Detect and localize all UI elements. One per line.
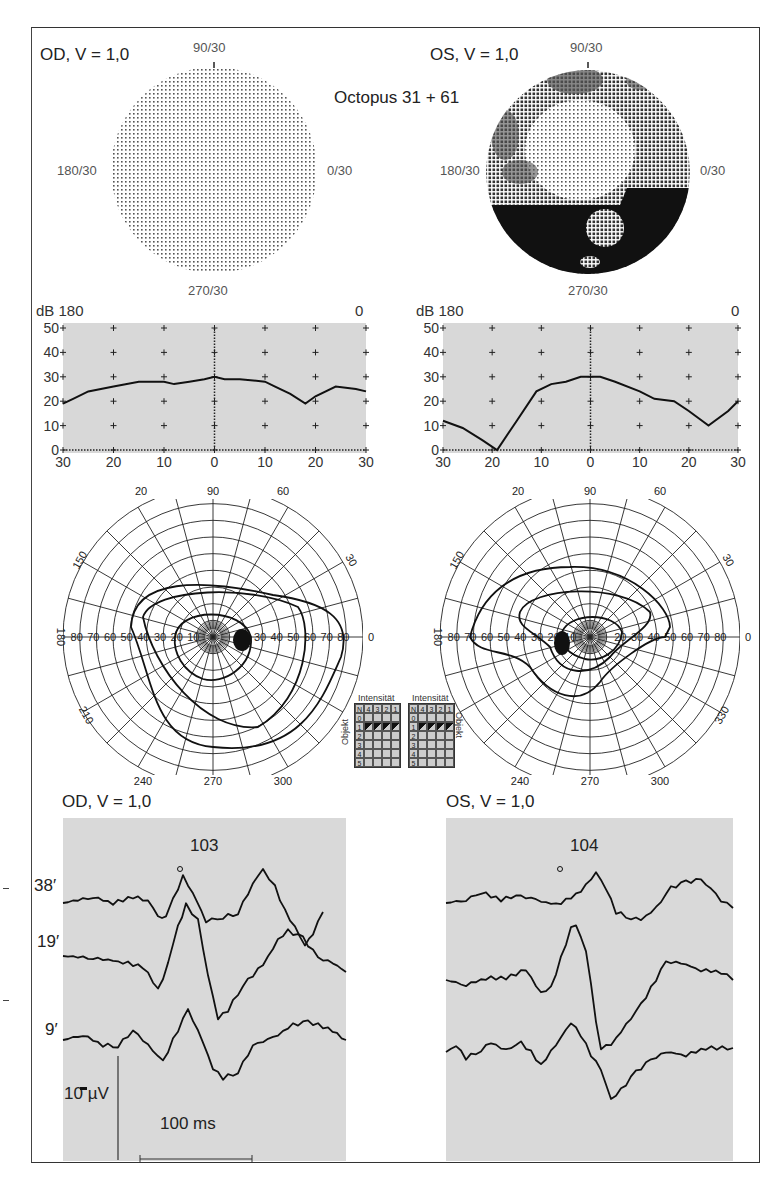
svg-text:30: 30 (423, 369, 439, 385)
grid-cell (427, 713, 436, 722)
grid-cell: 2 (355, 731, 364, 740)
svg-text:0: 0 (211, 454, 219, 470)
svg-text:90: 90 (584, 485, 596, 497)
grid-cell (373, 722, 382, 731)
svg-text:210: 210 (77, 704, 97, 726)
grid-cell: 2 (436, 704, 445, 713)
svg-text:20: 20 (484, 454, 500, 470)
object-label-od: Objekt (340, 719, 350, 745)
grid-cell (418, 758, 427, 767)
grid-cell (391, 740, 400, 749)
grid-cell: N (409, 704, 418, 713)
grid-cell (436, 758, 445, 767)
svg-text:10: 10 (534, 454, 550, 470)
grid-cell (436, 740, 445, 749)
svg-text:50: 50 (287, 631, 299, 643)
grid-cell (382, 740, 391, 749)
grid-cell (391, 722, 400, 731)
svg-text:300: 300 (651, 775, 669, 787)
grid-cell: 1 (445, 704, 454, 713)
svg-text:40: 40 (43, 344, 59, 360)
grid-cell (445, 713, 454, 722)
svg-text:0: 0 (368, 631, 374, 643)
svg-text:20: 20 (43, 393, 59, 409)
grid-cell (445, 731, 454, 740)
svg-text:50: 50 (121, 631, 133, 643)
grid-cell: 4 (409, 749, 418, 758)
od-profile-chart: 010203040503020100102030 (43, 320, 374, 470)
legend-box-od: Intensität N4321012345 (354, 693, 401, 768)
grid-cell: 0 (355, 713, 364, 722)
svg-text:10: 10 (632, 454, 648, 470)
grayscale-maps (0, 0, 769, 300)
grid-cell (418, 713, 427, 722)
svg-text:90: 90 (207, 485, 219, 497)
grid-cell (445, 758, 454, 767)
grid-cell: 4 (355, 749, 364, 758)
svg-text:60: 60 (277, 485, 289, 497)
grid-cell (427, 722, 436, 731)
grid-cell: 1 (355, 722, 364, 731)
svg-text:70: 70 (698, 631, 710, 643)
svg-text:80: 80 (448, 631, 460, 643)
svg-text:40: 40 (423, 344, 439, 360)
svg-text:50: 50 (423, 320, 439, 336)
grid-cell (418, 722, 427, 731)
svg-text:20: 20 (512, 485, 524, 497)
svg-text:60: 60 (681, 631, 693, 643)
svg-text:30: 30 (154, 631, 166, 643)
svg-text:80: 80 (71, 631, 83, 643)
grid-cell (418, 740, 427, 749)
grid-cell (364, 722, 373, 731)
grid-cell (382, 749, 391, 758)
grid-cell (382, 758, 391, 767)
intensity-label: Intensität (358, 693, 401, 703)
svg-text:40: 40 (271, 631, 283, 643)
os-perimetry-chart: 8070605040302010203040506070800209060150… (432, 485, 751, 787)
svg-text:60: 60 (104, 631, 116, 643)
grid-cell (427, 731, 436, 740)
svg-text:10: 10 (423, 418, 439, 434)
grid-cell: 0 (409, 713, 418, 722)
vep-trace (446, 1023, 733, 1099)
svg-text:60: 60 (654, 485, 666, 497)
grid-cell: 3 (409, 740, 418, 749)
grid-cell: 5 (409, 758, 418, 767)
grid-cell (436, 749, 445, 758)
grid-cell (373, 713, 382, 722)
svg-text:80: 80 (714, 631, 726, 643)
svg-text:70: 70 (321, 631, 333, 643)
grid-cell (445, 749, 454, 758)
svg-text:240: 240 (134, 775, 152, 787)
svg-text:50: 50 (498, 631, 510, 643)
svg-text:70: 70 (87, 631, 99, 643)
vep-trace (63, 1009, 346, 1080)
grid-cell: 4 (364, 704, 373, 713)
grid-cell (391, 749, 400, 758)
grid-cell (391, 713, 400, 722)
vep-trace (446, 872, 733, 920)
svg-text:20: 20 (106, 454, 122, 470)
intensity-label: Intensität (412, 693, 455, 703)
legend-box-os: Intensität N4321012345 (408, 693, 455, 768)
svg-text:20: 20 (423, 393, 439, 409)
grid-cell: 1 (391, 704, 400, 713)
grid-cell (382, 722, 391, 731)
vep-traces (0, 800, 769, 1184)
grid-cell: 1 (409, 722, 418, 731)
grid-cell (391, 758, 400, 767)
grid-cell (427, 740, 436, 749)
object-label-os: Objekt (454, 712, 464, 738)
svg-text:10: 10 (257, 454, 273, 470)
svg-text:50: 50 (664, 631, 676, 643)
vep-trace (446, 925, 733, 1049)
grid-cell: 2 (382, 704, 391, 713)
svg-text:30: 30 (730, 454, 746, 470)
svg-text:300: 300 (274, 775, 292, 787)
svg-text:30: 30 (435, 454, 451, 470)
svg-text:0: 0 (745, 631, 751, 643)
grid-cell (427, 758, 436, 767)
profile-charts: 0102030405030201001020300102030405030201… (0, 315, 769, 495)
grid-cell (364, 749, 373, 758)
svg-text:240: 240 (511, 775, 529, 787)
